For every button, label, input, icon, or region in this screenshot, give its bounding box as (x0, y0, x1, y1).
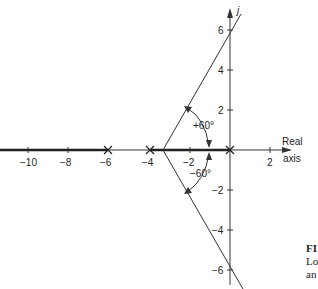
caption-line-1: FI (306, 242, 317, 254)
j-axis-label: j (235, 5, 240, 16)
axis-label: axis (283, 153, 301, 164)
caption-line-2: Lo (306, 255, 318, 267)
x-tick-labels: −10 −8 −6 −4 −2 2 (20, 157, 273, 168)
imaginary-axis-arrow-icon (227, 8, 233, 18)
svg-text:−2: −2 (183, 157, 195, 168)
svg-text:−10: −10 (20, 157, 37, 168)
angle-label-plus60: +60° (193, 120, 214, 131)
real-axis-label: Real (282, 136, 303, 147)
svg-text:6: 6 (218, 25, 224, 36)
arrow-icon (206, 152, 212, 160)
svg-text:−8: −8 (60, 157, 72, 168)
svg-text:4: 4 (218, 65, 224, 76)
svg-text:2: 2 (218, 105, 224, 116)
svg-text:−6: −6 (212, 265, 224, 276)
caption-line-3: an (306, 268, 317, 280)
svg-text:−6: −6 (100, 157, 112, 168)
root-locus-plot: −10 −8 −6 −4 −2 2 6 4 2 −2 −4 −6 +60° −6… (0, 0, 318, 289)
svg-text:−2: −2 (212, 185, 224, 196)
svg-text:−4: −4 (142, 157, 154, 168)
angle-label-minus60: −60° (190, 168, 211, 179)
svg-text:2: 2 (267, 157, 273, 168)
svg-text:−4: −4 (212, 225, 224, 236)
arrow-icon (206, 140, 212, 148)
